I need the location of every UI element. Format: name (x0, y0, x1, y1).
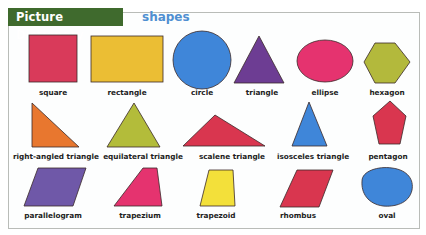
label-rhombus: rhombus (280, 211, 316, 220)
label-ellipse: ellipse (312, 88, 339, 97)
label-square: square (39, 88, 67, 97)
right-angled-triangle-shape (32, 103, 79, 147)
trapezoid-shape (200, 170, 235, 206)
label-trapezoid: trapezoid (196, 211, 235, 220)
oval-shape (362, 168, 412, 207)
rectangle-shape (91, 36, 163, 82)
parallelogram-shape (24, 168, 86, 206)
label-triangle: triangle (246, 88, 278, 97)
label-equilateral-triangle: equilateral triangle (103, 152, 183, 161)
pentagon-shape (373, 101, 406, 144)
label-oval: oval (378, 211, 395, 220)
scalene-triangle-shape (183, 115, 265, 146)
shapes-canvas (0, 0, 426, 235)
label-trapezium: trapezium (119, 211, 161, 220)
hexagon-shape (364, 43, 410, 83)
label-right-angled-triangle: right-angled triangle (13, 152, 99, 161)
label-rectangle: rectangle (107, 88, 146, 97)
isosceles-triangle-shape (292, 102, 327, 146)
ellipse-shape (297, 40, 353, 82)
circle-shape (173, 31, 231, 89)
label-circle: circle (191, 88, 213, 97)
label-pentagon: pentagon (368, 152, 407, 161)
label-scalene-triangle: scalene triangle (199, 152, 265, 161)
trapezium-shape (114, 168, 162, 206)
square-shape (29, 35, 77, 82)
label-isosceles-triangle: isosceles triangle (277, 152, 349, 161)
label-hexagon: hexagon (369, 88, 404, 97)
triangle-shape (234, 36, 284, 83)
rhombus-shape (280, 170, 333, 207)
equilateral-triangle-shape (107, 103, 160, 147)
label-parallelogram: parallelogram (24, 211, 81, 220)
